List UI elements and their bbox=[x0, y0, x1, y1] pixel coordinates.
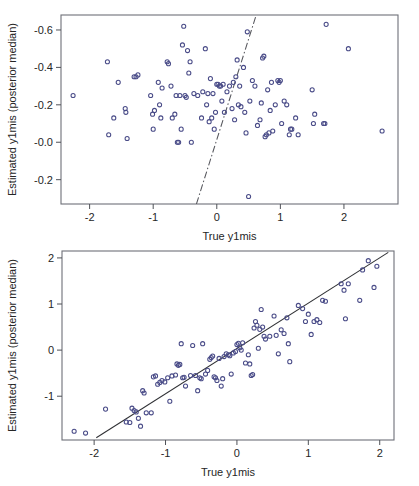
x-tick-label: -1 bbox=[161, 447, 171, 459]
x-tick-label: -1 bbox=[148, 211, 158, 223]
y-tick-label: -0.6 bbox=[34, 24, 53, 36]
y-axis: -0.6-0.4-0.2-0.0-0.2 bbox=[34, 24, 61, 186]
x-tick-label: -2 bbox=[85, 211, 95, 223]
x-tick-label: 2 bbox=[377, 447, 383, 459]
plot-frame bbox=[61, 15, 398, 204]
plot-frame bbox=[62, 251, 394, 440]
y-tick-label: -1 bbox=[44, 390, 54, 402]
x-axis-title: True y1mis bbox=[201, 466, 255, 478]
chart-canvas-bottom: -2-1012210-1True y1misEstimated y1mis (p… bbox=[0, 243, 419, 486]
x-tick-label: 1 bbox=[305, 447, 311, 459]
y-tick-label: -0.0 bbox=[34, 136, 53, 148]
y-tick-label: -0.4 bbox=[34, 61, 53, 73]
x-tick-label: 1 bbox=[277, 211, 283, 223]
y-axis-title: Estimated y1mis (posterior median) bbox=[6, 23, 18, 196]
scatter-panel-bottom: -2-1012210-1True y1misEstimated y1mis (p… bbox=[0, 243, 419, 486]
y-tick-label: -0.2 bbox=[34, 99, 53, 111]
y-axis: 210-1 bbox=[44, 252, 62, 402]
y-tick-label: -0.2 bbox=[34, 174, 53, 186]
chart-canvas-top: -2-1012-0.6-0.4-0.2-0.0-0.2True y1misEst… bbox=[0, 0, 419, 243]
y-tick-label: 0 bbox=[48, 344, 54, 356]
y-axis-title: Estimated y1mis (posterior median) bbox=[6, 259, 18, 432]
x-tick-label: 0 bbox=[214, 211, 220, 223]
x-tick-label: -2 bbox=[89, 447, 99, 459]
scatter-panel-top: -2-1012-0.6-0.4-0.2-0.0-0.2True y1misEst… bbox=[0, 0, 419, 243]
y-tick-label: 1 bbox=[48, 298, 54, 310]
x-tick-label: 2 bbox=[341, 211, 347, 223]
x-axis-title: True y1mis bbox=[203, 230, 257, 242]
y-tick-label: 2 bbox=[48, 252, 54, 264]
x-axis: -2-1012 bbox=[85, 204, 347, 223]
x-axis: -2-1012 bbox=[89, 440, 383, 459]
x-tick-label: 0 bbox=[234, 447, 240, 459]
